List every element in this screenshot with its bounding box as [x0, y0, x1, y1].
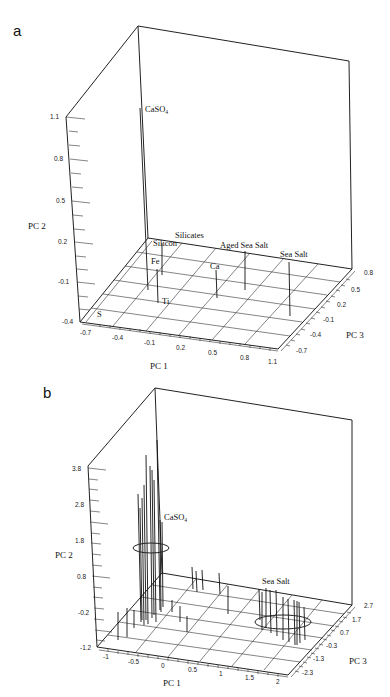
panel-b-pc2-tick-2: 1.8 [75, 537, 84, 544]
panel-a-label: a [13, 22, 22, 39]
panel-a-ann-ca: Ca [210, 261, 220, 271]
panel-a: a [13, 22, 373, 371]
panel-a-pc1-tick-3: 0.2 [176, 344, 185, 351]
panel-a-pc2-tick-5: -0.4 [62, 318, 74, 325]
panel-b-pc3-hatch [291, 607, 355, 677]
panel-b-pc3-tick-2: 0.7 [340, 629, 349, 636]
panel-b-pc1-title: PC 1 [163, 678, 181, 688]
panel-b-pc3-tick-3: -0.3 [326, 642, 338, 649]
panel-a-pc1-tick-0: -0.7 [80, 329, 92, 336]
panel-b-pc3-tick-1: 1.7 [352, 616, 361, 623]
panel-a-pc2-tick-2: 0.5 [56, 197, 65, 204]
panel-b-pc2-tick-1: 2.8 [75, 501, 84, 508]
panel-a-ann-sea-salt: Sea Salt [280, 249, 308, 259]
panel-a-pc3-tick-3: -0.1 [323, 316, 335, 323]
panel-b-frame [88, 388, 352, 675]
panel-a-pc1-tick-2: -0.1 [144, 339, 156, 346]
panel-a-pc1-title: PC 1 [150, 361, 168, 371]
panel-a-pc3-tick-4: -0.4 [310, 331, 322, 338]
panel-a-pc1-tick-6: 1.1 [268, 358, 277, 365]
panel-a-ann-caso4: CaSO₄ [145, 104, 168, 114]
panel-a-ann-s: S [97, 309, 102, 319]
panel-a-pc1-tick-1: -0.4 [112, 334, 124, 341]
panel-a-pc3-tick-0: 0.8 [364, 269, 373, 276]
panel-a-ann-aged-sea-salt: Aged Sea Salt [220, 240, 269, 250]
panel-b-pc1-tick-1: -0.5 [128, 658, 140, 665]
panel-a-pc2-ticks [66, 117, 95, 310]
panel-b-label: b [43, 384, 51, 401]
panel-b-pc2-title: PC 2 [55, 550, 73, 560]
panel-b-pc1-tick-3: 0.5 [188, 666, 197, 673]
panel-b-caso4-stems [118, 440, 187, 640]
panel-b-pc1-tick-5: 1.5 [245, 674, 254, 681]
panel-a-pc2-tick-3: 0.2 [58, 238, 67, 245]
panel-b-pc3-tick-0: 2.7 [364, 602, 373, 609]
panel-a-pc1-tick-4: 0.5 [208, 349, 217, 356]
panel-b-pc3-title: PC 3 [349, 656, 367, 666]
panel-b-pc2-tick-5: -1.2 [80, 644, 92, 651]
panel-a-ann-silicates: Silicates [175, 230, 204, 240]
panel-a-pc2-tick-1: 0.8 [54, 155, 63, 162]
figure: a [0, 0, 390, 697]
panel-b-ann-caso4: CaSO₄ [164, 512, 187, 522]
panel-a-pc3-title: PC 3 [346, 330, 364, 340]
panel-b-pc1-tick-4: 1 [219, 670, 223, 677]
panel-b-pc1-tick-0: -1 [103, 653, 109, 660]
panel-b-pc2-tick-4: -0.2 [78, 609, 90, 616]
panel-a-pc3-tick-5: -0.7 [296, 347, 308, 354]
panel-b-pc3-tick-4: -1.3 [313, 655, 325, 662]
panel-a-ann-fe: Fe [151, 256, 160, 266]
panel-b-pc1-tick-2: 0 [161, 662, 165, 669]
panel-a-ann-ti: Ti [162, 296, 170, 306]
panel-b-pc1-tick-6: 2 [276, 678, 280, 685]
panel-a-pc1-tick-5: 0.8 [240, 354, 249, 361]
panel-a-pc2-tick-0: 1.1 [50, 113, 59, 120]
panel-a-pc3-tick-2: 0.2 [337, 301, 346, 308]
panel-b-ann-sea-salt: Sea Salt [262, 576, 290, 586]
panel-b: b [43, 384, 373, 688]
panel-a-pc3-tick-1: 0.5 [351, 286, 360, 293]
panel-b-pc2-ticks [88, 468, 112, 641]
panel-b-pc2-tick-0: 3.8 [72, 465, 81, 472]
panel-a-stems [140, 108, 290, 316]
panel-b-pc2-tick-3: 0.8 [77, 573, 86, 580]
panel-a-pc3-hatch [281, 271, 355, 351]
panel-b-pc3-tick-5: -2.3 [302, 669, 314, 676]
panel-a-pc2-tick-4: -0.1 [58, 278, 70, 285]
panel-a-pc2-title: PC 2 [28, 221, 46, 231]
